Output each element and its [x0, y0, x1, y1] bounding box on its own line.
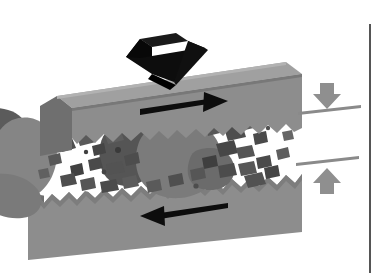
upper-block-left-face — [40, 96, 72, 156]
grain-speck — [115, 147, 121, 153]
grain — [38, 168, 50, 179]
grain — [282, 130, 294, 141]
grain-speck — [84, 150, 88, 154]
shear-zone-diagram — [0, 0, 382, 273]
grain-speck — [102, 170, 107, 175]
grain-speck — [193, 183, 198, 188]
illustration-canvas — [0, 0, 382, 273]
panel-divider-line — [369, 24, 371, 273]
